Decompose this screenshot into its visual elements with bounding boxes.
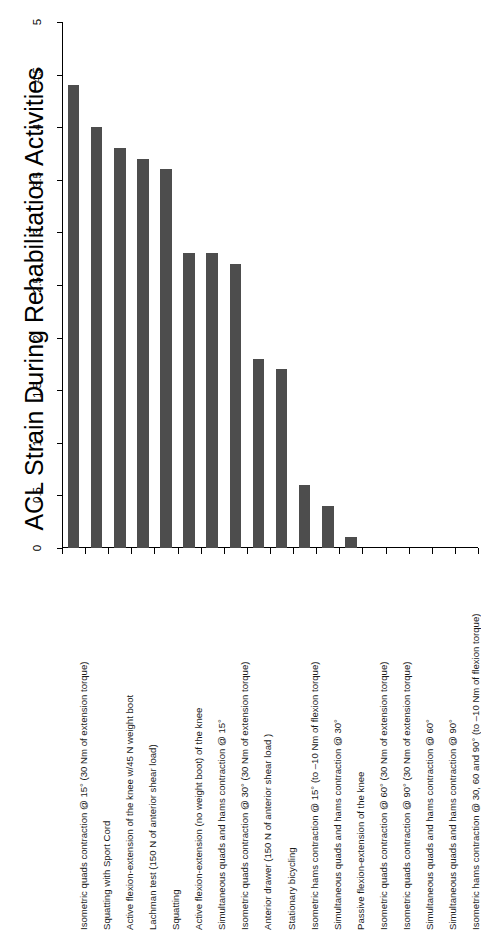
category-label: Lachman test (150 N of anterior shear lo… — [147, 744, 158, 930]
category-tick — [362, 548, 363, 554]
category-label: Simultaneous quads and hams contraction … — [332, 719, 343, 930]
value-tick — [57, 390, 63, 391]
value-tick-label: 0.5 — [31, 475, 43, 515]
category-tick — [201, 548, 202, 554]
category-label: Anterior drawer (150 N of anterior shear… — [262, 734, 273, 930]
bar — [345, 537, 357, 548]
category-tick — [455, 548, 456, 554]
category-label: Simultaneous quads and hams contraction … — [216, 719, 227, 930]
value-tick — [57, 338, 63, 339]
category-tick — [85, 548, 86, 554]
category-label: Simultaneous quads and hams contraction … — [447, 719, 458, 930]
category-tick — [432, 548, 433, 554]
category-label: Isometric quads contraction @ 15° (30 Nm… — [78, 662, 89, 930]
category-label: Passive flexion-extension of the knee — [355, 772, 366, 930]
category-label: Squatting — [170, 889, 181, 930]
value-tick-label: 1.5 — [31, 370, 43, 410]
value-tick-label: 2.5 — [31, 265, 43, 305]
bar — [114, 148, 126, 548]
value-tick — [57, 22, 63, 23]
bar — [206, 253, 218, 548]
category-label: Isometric hams contraction @ 30, 60 and … — [470, 614, 481, 930]
category-tick — [178, 548, 179, 554]
bar — [230, 264, 242, 548]
category-tick — [316, 548, 317, 554]
value-tick-label: 2 — [31, 318, 43, 358]
value-tick-label: 4.5 — [31, 55, 43, 95]
category-tick — [108, 548, 109, 554]
category-tick — [270, 548, 271, 554]
category-label: Stationary bicycling — [286, 847, 297, 930]
category-label: Simultaneous quads and hams contraction … — [424, 719, 435, 930]
value-tick-label: 0 — [31, 528, 43, 568]
value-tick-label: 3 — [31, 212, 43, 252]
category-tick — [386, 548, 387, 554]
category-tick — [62, 548, 63, 554]
bar — [91, 127, 103, 548]
category-tick — [478, 548, 479, 554]
value-tick-label: 5 — [31, 2, 43, 42]
bar — [322, 506, 334, 548]
value-tick — [57, 232, 63, 233]
category-label: Isometric quads contraction @ 30° (30 Nm… — [239, 662, 250, 930]
bar — [160, 169, 172, 548]
bar — [68, 85, 80, 548]
category-tick — [409, 548, 410, 554]
bar — [299, 485, 311, 548]
category-axis-labels: Isometric quads contraction @ 15° (30 Nm… — [62, 556, 478, 936]
value-tick-label: 1 — [31, 423, 43, 463]
category-tick — [293, 548, 294, 554]
category-tick — [154, 548, 155, 554]
value-tick-label: 4 — [31, 107, 43, 147]
category-label: Isometric quads contraction @ 90° (30 Nm… — [401, 662, 412, 930]
value-tick — [57, 443, 63, 444]
category-tick — [247, 548, 248, 554]
category-label: Squatting with Sport Cord — [101, 821, 112, 930]
value-tick — [57, 127, 63, 128]
category-label: Isometric hams contraction @ 15° (to –10… — [309, 662, 320, 930]
value-tick-label: 3.5 — [31, 160, 43, 200]
value-tick — [57, 285, 63, 286]
bar — [276, 369, 288, 548]
value-tick — [57, 180, 63, 181]
category-tick — [131, 548, 132, 554]
category-tick — [224, 548, 225, 554]
value-tick — [57, 75, 63, 76]
category-label: Active flexion-extension of the knee w/4… — [124, 695, 135, 930]
bar — [183, 253, 195, 548]
bar — [253, 359, 265, 548]
category-label: Active flexion-extension (no weight boot… — [193, 708, 204, 930]
bar — [137, 159, 149, 548]
category-tick — [339, 548, 340, 554]
plot-area: 00.511.522.533.544.55 — [62, 22, 478, 548]
category-label: Isometric quads contraction @ 60° (30 Nm… — [378, 662, 389, 930]
value-tick — [57, 495, 63, 496]
